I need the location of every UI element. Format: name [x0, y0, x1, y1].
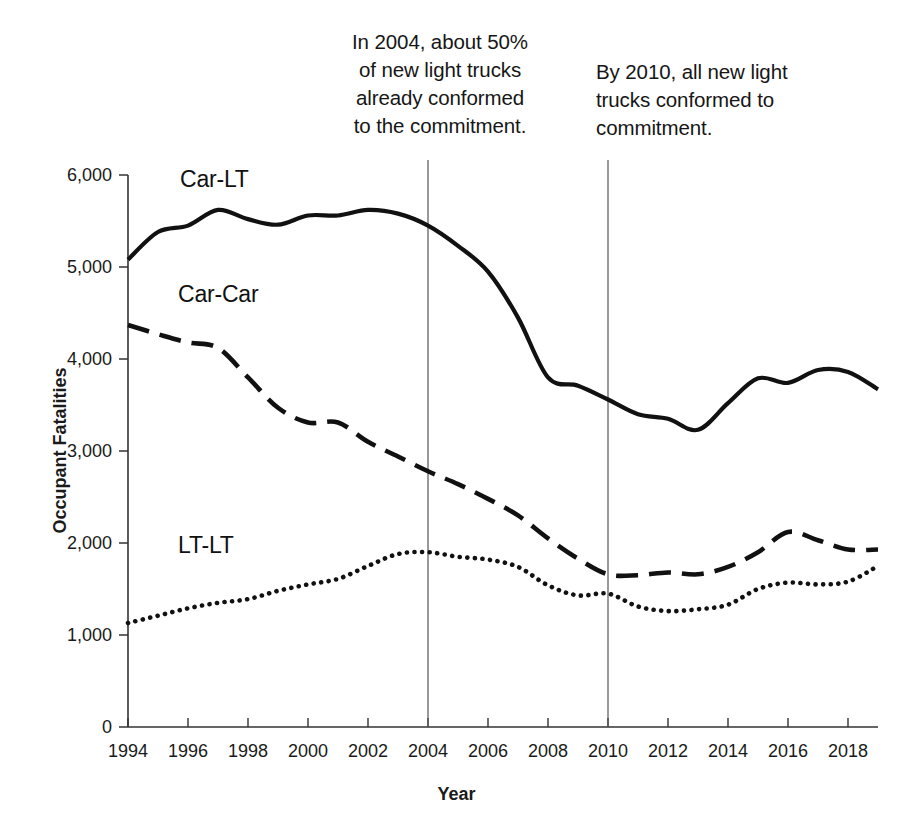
x-tick-label-2016: 2016 [768, 741, 808, 762]
occupant-fatalities-chart: In 2004, about 50% of new light trucks a… [0, 0, 913, 827]
series-label-car-car: Car-Car [178, 281, 258, 308]
series-label-car-lt: Car-LT [180, 166, 249, 193]
x-tick-label-2010: 2010 [588, 741, 628, 762]
series-label-lt-lt: LT-LT [178, 532, 234, 559]
y-tick-label-4000: 4,000 [20, 349, 112, 370]
y-tick-label-6000: 6,000 [20, 165, 112, 186]
x-tick-label-2004: 2004 [408, 741, 448, 762]
series-line-car-lt [128, 210, 878, 430]
series-line-lt-lt [128, 552, 878, 623]
x-axis-ticks [128, 718, 848, 727]
annotation-2010-text: By 2010, all new light trucks conformed … [596, 58, 846, 142]
x-tick-label-2002: 2002 [348, 741, 388, 762]
y-tick-label-3000: 3,000 [20, 441, 112, 462]
y-tick-label-2000: 2,000 [20, 533, 112, 554]
x-tick-label-2000: 2000 [288, 741, 328, 762]
x-tick-label-2014: 2014 [708, 741, 748, 762]
x-tick-label-2006: 2006 [468, 741, 508, 762]
y-tick-label-1000: 1,000 [20, 625, 112, 646]
x-tick-label-1994: 1994 [108, 741, 148, 762]
chart-axes [119, 175, 878, 727]
y-tick-label-0: 0 [20, 717, 112, 738]
y-tick-label-5000: 5,000 [20, 257, 112, 278]
data-series-group [128, 210, 878, 623]
x-tick-label-2018: 2018 [828, 741, 868, 762]
annotation-2004-text: In 2004, about 50% of new light trucks a… [298, 28, 582, 140]
x-tick-label-2008: 2008 [528, 741, 568, 762]
x-tick-label-1996: 1996 [168, 741, 208, 762]
x-tick-label-2012: 2012 [648, 741, 688, 762]
x-tick-label-1998: 1998 [228, 741, 268, 762]
x-axis-title: Year [0, 784, 913, 805]
series-line-car-car [128, 325, 878, 576]
y-axis-ticks [119, 175, 128, 727]
